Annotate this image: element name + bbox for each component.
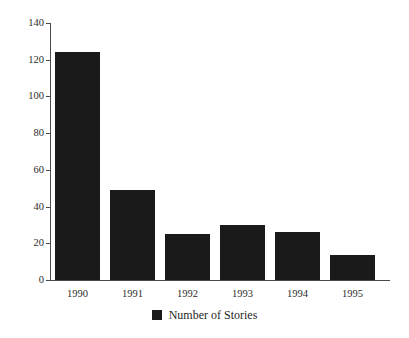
y-tick-label-140: 140 (19, 18, 44, 29)
y-tick-80 (46, 133, 51, 134)
y-tick-100 (46, 96, 51, 97)
y-tick-20 (46, 243, 51, 244)
y-tick-label-120: 120 (19, 55, 44, 66)
x-tick-label-1992: 1992 (165, 289, 210, 300)
y-tick-label-40: 40 (26, 202, 44, 213)
y-tick-label-80: 80 (26, 128, 44, 139)
x-axis-line (50, 280, 390, 281)
y-tick-120 (46, 60, 51, 61)
legend-label: Number of Stories (169, 309, 258, 321)
x-tick-label-1993: 1993 (220, 289, 265, 300)
y-tick-label-100: 100 (19, 91, 44, 102)
bar-1990 (55, 52, 100, 280)
y-tick-40 (46, 207, 51, 208)
legend-swatch-icon (152, 310, 162, 320)
bar-1991 (110, 190, 155, 280)
x-tick-label-1994: 1994 (275, 289, 320, 300)
bar-chart-figure: 0 20 40 60 80 100 120 140 1990 1991 1992… (0, 0, 409, 338)
bar-1994 (275, 232, 320, 280)
y-tick-label-60: 60 (26, 165, 44, 176)
bar-1992 (165, 234, 210, 280)
bar-1993 (220, 225, 265, 280)
chart-legend: Number of Stories (0, 309, 409, 321)
x-tick-label-1991: 1991 (110, 289, 155, 300)
y-tick-label-20: 20 (26, 238, 44, 249)
y-tick-60 (46, 170, 51, 171)
y-tick-140 (46, 23, 51, 24)
y-tick-0 (46, 280, 51, 281)
bar-1995 (330, 255, 375, 280)
plot-area: 0 20 40 60 80 100 120 140 1990 1991 1992… (50, 23, 390, 281)
x-tick-label-1990: 1990 (55, 289, 100, 300)
y-tick-label-0: 0 (34, 275, 44, 286)
x-tick-label-1995: 1995 (330, 289, 375, 300)
